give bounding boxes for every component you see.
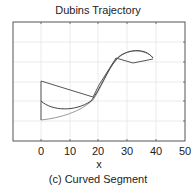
dubins-curve-light xyxy=(41,51,153,120)
x-tick-50: 50 xyxy=(179,145,191,157)
x-tick-30: 30 xyxy=(121,145,133,157)
gridlines xyxy=(13,22,185,141)
figure-caption: (c) Curved Segment xyxy=(0,173,196,185)
x-tick-0: 0 xyxy=(38,145,44,157)
x-axis-label: x xyxy=(96,158,102,170)
x-tick-10: 10 xyxy=(64,145,76,157)
x-tick-40: 40 xyxy=(150,145,162,157)
axis-ticks xyxy=(41,22,185,141)
path-polyline xyxy=(41,58,153,120)
axes-frame xyxy=(13,22,185,141)
x-tick-20: 20 xyxy=(92,145,104,157)
dubins-curve-dark xyxy=(41,51,153,109)
